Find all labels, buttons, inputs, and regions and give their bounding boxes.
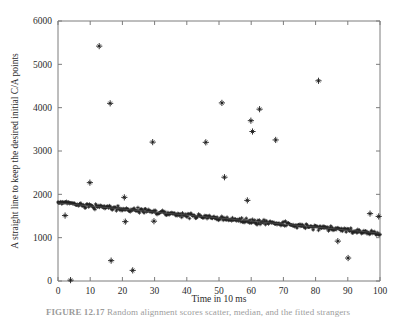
outlier-points <box>62 43 382 283</box>
y-tick-label: 0 <box>47 276 52 286</box>
y-tick-label: 6000 <box>33 16 52 26</box>
y-tick-label: 4000 <box>33 103 52 113</box>
y-tick-label: 5000 <box>33 60 52 70</box>
x-tick-label: 20 <box>118 286 128 296</box>
x-tick-label: 70 <box>279 286 289 296</box>
x-tick-label: 0 <box>56 286 61 296</box>
scatter-plot: 0102030405060708090100 01000200030004000… <box>0 0 396 319</box>
x-tick-label: 30 <box>150 286 160 296</box>
y-tick-label: 2000 <box>33 190 52 200</box>
y-axis-label: A straight line to keep the desired init… <box>10 53 20 249</box>
y-tick-label: 1000 <box>33 233 52 243</box>
caption-figure-number: FIGURE 12.17 <box>46 307 105 317</box>
x-tick-label: 80 <box>311 286 321 296</box>
figure-caption: FIGURE 12.17 Random alignment scores sca… <box>0 306 396 319</box>
figure-container: 0102030405060708090100 01000200030004000… <box>0 0 396 319</box>
x-tick-label: 60 <box>246 286 256 296</box>
plot-axes <box>58 21 380 281</box>
x-tick-label: 90 <box>343 286 353 296</box>
axis-frame <box>58 21 380 281</box>
x-axis-label: Time in 10 ms <box>192 294 247 304</box>
x-axis-ticks <box>58 21 380 281</box>
y-axis-tick-labels: 0100020003000400050006000 <box>33 16 52 286</box>
x-tick-label: 40 <box>182 286 192 296</box>
y-tick-label: 3000 <box>33 146 52 156</box>
x-tick-label: 100 <box>373 286 388 296</box>
x-tick-label: 10 <box>85 286 95 296</box>
fit-line <box>58 203 380 233</box>
y-axis-ticks <box>58 21 380 281</box>
caption-body: Random alignment scores scatter, median,… <box>107 307 350 317</box>
